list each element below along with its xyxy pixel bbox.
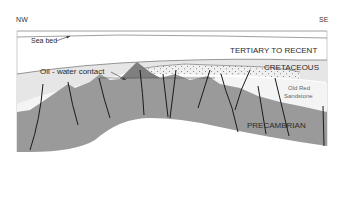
precambrian-label: PRECAMBRIAN (247, 121, 306, 130)
cross-section-diagram: Sea bed TERTIARY TO RECENT CRETACEOUS Oi… (0, 0, 343, 212)
tertiary-label: TERTIARY TO RECENT (230, 46, 317, 55)
sea-bed-label: Sea bed (31, 37, 57, 44)
old-red-label-line1: Old Red (288, 85, 310, 91)
old-red-label-line2: Sandstone (284, 93, 313, 99)
oil-water-contact-label: Oil - water contact (40, 67, 105, 76)
cretaceous-label: CRETACEOUS (264, 63, 319, 72)
